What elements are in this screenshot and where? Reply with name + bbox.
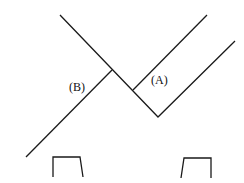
right-bracket-shape bbox=[181, 158, 211, 178]
label-b: (B) bbox=[69, 81, 85, 93]
label-a: (A) bbox=[151, 74, 168, 86]
left-bracket-shape bbox=[53, 157, 83, 177]
diagram-lines bbox=[0, 0, 244, 183]
diagram-canvas: (B) (A) bbox=[0, 0, 244, 183]
v-shaped-line bbox=[60, 15, 235, 117]
